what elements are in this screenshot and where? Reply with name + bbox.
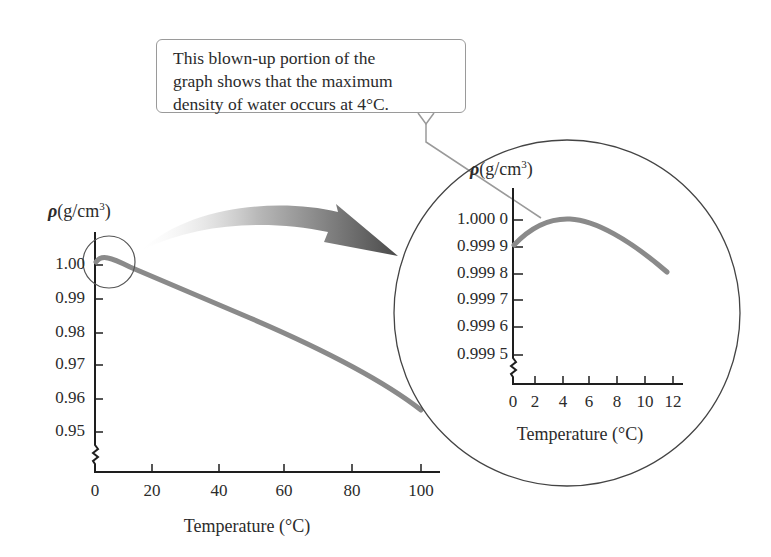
inset-axes: [511, 188, 683, 384]
inset-x-tick-label: 8: [613, 392, 622, 412]
zoom-region-circle: [83, 236, 135, 288]
main-y-tick-label: 1.00: [30, 254, 85, 274]
inset-density-curve: [514, 219, 667, 272]
inset-y-tick-label: 0.999 9: [430, 236, 508, 256]
main-x-tick-label: 20: [144, 481, 161, 501]
inset-x-tick-label: 2: [531, 392, 540, 412]
main-y-tick-label: 0.97: [30, 354, 85, 374]
main-chart: [83, 232, 440, 472]
main-y-tick-label: 0.95: [30, 421, 85, 441]
main-x-tick-label: 40: [211, 481, 228, 501]
main-y-tick-label: 0.96: [30, 388, 85, 408]
inset-y-tick-label: 0.999 8: [430, 263, 508, 283]
inset-x-tick-label: 6: [585, 392, 594, 412]
inset-y-axis-label: ρ(g/cm3): [470, 158, 533, 180]
main-y-ticks: [95, 265, 103, 432]
main-y-axis-label: ρ(g/cm3): [48, 200, 111, 222]
main-y-tick-label: 0.98: [30, 322, 85, 342]
callout-line: density of water occurs at 4°C.: [173, 93, 465, 116]
inset-x-tick-label: 0: [509, 392, 518, 412]
inset-x-ticks: [535, 376, 673, 384]
inset-x-axis-label: Temperature (°C): [517, 424, 643, 445]
main-y-axis: [93, 232, 440, 472]
inset-y-tick-label: 0.999 6: [430, 316, 508, 336]
callout-line: graph shows that the maximum: [173, 70, 465, 93]
inset-x-tick-label: 12: [665, 392, 682, 412]
main-x-tick-label: 80: [344, 481, 361, 501]
inset-x-tick-label: 4: [559, 392, 568, 412]
main-x-axis-label: Temperature (°C): [184, 516, 310, 537]
main-density-curve: [96, 258, 421, 410]
main-x-ticks: [152, 464, 421, 472]
main-x-tick-label: 60: [276, 481, 293, 501]
callout-box: This blown-up portion of the graph shows…: [156, 39, 466, 113]
magnify-arrow-icon: [142, 204, 398, 256]
main-x-tick-label: 100: [408, 481, 434, 501]
inset-y-tick-label: 0.999 5: [430, 344, 508, 364]
main-x-tick-label: 0: [91, 481, 100, 501]
inset-y-tick-label: 1.000 0: [430, 209, 508, 229]
inset-y-tick-label: 0.999 7: [430, 289, 508, 309]
callout-line: This blown-up portion of the: [173, 47, 465, 70]
inset-x-tick-label: 10: [637, 392, 654, 412]
main-y-tick-label: 0.99: [30, 288, 85, 308]
